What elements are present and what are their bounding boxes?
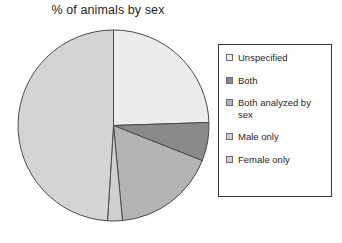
legend-item-both[interactable]: Both <box>219 75 331 87</box>
chart-title: % of animals by sex <box>0 3 216 17</box>
legend-item-unspecified[interactable]: Unspecified <box>219 52 331 64</box>
legend-swatch-icon-unspecified <box>226 54 233 61</box>
chart-legend: Unspecified Both Both analyzed by sex Ma… <box>218 44 332 197</box>
legend-label-unspecified: Unspecified <box>238 52 288 64</box>
pie-svg <box>16 28 211 223</box>
pie-slice-unspecified[interactable] <box>114 30 209 126</box>
pie-slices-group <box>18 30 209 221</box>
pie-plot-area <box>16 28 211 223</box>
legend-swatch-icon-male-only <box>226 133 233 140</box>
legend-label-female-only: Female only <box>238 154 290 166</box>
legend-label-male-only: Male only <box>238 131 279 143</box>
pie-chart-figure: % of animals by sex Unspecified Both Bot… <box>0 0 342 243</box>
legend-swatch-icon-female-only <box>226 156 233 163</box>
legend-label-both: Both <box>238 75 258 87</box>
legend-swatch-icon-both <box>226 77 233 84</box>
legend-swatch-icon-both-analyzed-by-sex <box>226 99 233 106</box>
legend-item-both-analyzed-by-sex[interactable]: Both analyzed by sex <box>219 97 331 120</box>
legend-label-both-analyzed-by-sex: Both analyzed by sex <box>238 97 327 120</box>
legend-item-male-only[interactable]: Male only <box>219 131 331 143</box>
legend-item-female-only[interactable]: Female only <box>219 154 331 166</box>
pie-slice-female-only[interactable] <box>18 30 113 221</box>
